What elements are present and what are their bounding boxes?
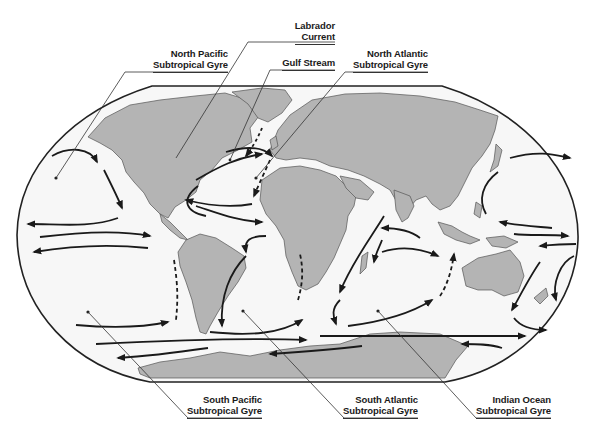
label-gulf-stream: Gulf Stream xyxy=(282,57,335,71)
label-north-atlantic-gyre: North Atlantic Subtropical Gyre xyxy=(353,48,428,73)
label-line: Subtropical Gyre xyxy=(353,59,428,70)
label-line: Subtropical Gyre xyxy=(476,405,551,416)
label-line: Subtropical Gyre xyxy=(187,405,262,416)
label-south-pacific-gyre: South Pacific Subtropical Gyre xyxy=(187,394,262,419)
label-line: Gulf Stream xyxy=(282,57,335,68)
label-south-atlantic-gyre: South Atlantic Subtropical Gyre xyxy=(343,394,418,419)
label-line: Subtropical Gyre xyxy=(153,59,228,70)
label-line: South Pacific xyxy=(187,394,262,405)
label-north-pacific-gyre: North Pacific Subtropical Gyre xyxy=(153,48,228,73)
label-line: North Pacific xyxy=(153,48,228,59)
label-line: Indian Ocean xyxy=(476,394,551,405)
label-line: South Atlantic xyxy=(343,394,418,405)
label-line: Labrador xyxy=(295,20,335,31)
label-line: Subtropical Gyre xyxy=(343,405,418,416)
label-line: North Atlantic xyxy=(353,48,428,59)
label-indian-ocean-gyre: Indian Ocean Subtropical Gyre xyxy=(476,394,551,419)
label-line: Current xyxy=(295,31,335,42)
label-labrador-current: Labrador Current xyxy=(295,20,335,45)
